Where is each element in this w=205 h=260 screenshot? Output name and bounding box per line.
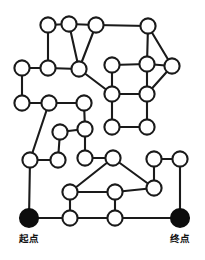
node-layer — [14, 16, 189, 227]
graph-node[interactable] — [71, 61, 86, 76]
graph-edge — [30, 103, 49, 160]
graph-node[interactable] — [140, 18, 155, 33]
end-node[interactable] — [171, 209, 189, 227]
graph-node[interactable] — [104, 57, 119, 72]
graph-node[interactable] — [62, 210, 77, 225]
end-label: 终点 — [169, 233, 190, 244]
maze-graph-figure: 起点终点 — [0, 0, 205, 260]
graph-node[interactable] — [52, 124, 67, 139]
graph-node[interactable] — [139, 56, 154, 71]
start-node[interactable] — [20, 209, 38, 227]
graph-node[interactable] — [146, 180, 161, 195]
graph-node[interactable] — [107, 184, 122, 199]
graph-canvas: 起点终点 — [0, 0, 205, 260]
graph-node[interactable] — [139, 119, 154, 134]
graph-node[interactable] — [104, 119, 119, 134]
label-layer: 起点终点 — [18, 233, 190, 244]
graph-node[interactable] — [107, 210, 122, 225]
graph-node[interactable] — [14, 60, 29, 75]
graph-node[interactable] — [172, 151, 187, 166]
graph-node[interactable] — [105, 150, 120, 165]
graph-node[interactable] — [50, 152, 65, 167]
start-label: 起点 — [18, 233, 39, 244]
graph-node[interactable] — [88, 17, 103, 32]
graph-node[interactable] — [77, 150, 92, 165]
graph-node[interactable] — [41, 95, 56, 110]
graph-node[interactable] — [40, 60, 55, 75]
graph-node[interactable] — [164, 58, 179, 73]
graph-node[interactable] — [40, 17, 55, 32]
graph-node[interactable] — [62, 184, 77, 199]
graph-node[interactable] — [139, 86, 154, 101]
graph-node[interactable] — [146, 151, 161, 166]
graph-node[interactable] — [61, 16, 76, 31]
graph-node[interactable] — [22, 152, 37, 167]
graph-node[interactable] — [76, 95, 91, 110]
graph-node[interactable] — [77, 121, 92, 136]
graph-node[interactable] — [104, 86, 119, 101]
graph-node[interactable] — [14, 95, 29, 110]
